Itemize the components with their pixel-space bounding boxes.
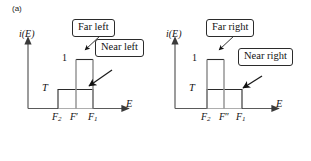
right-ytick-one: 1 bbox=[192, 52, 197, 63]
left-xtick-F2-sub: 2 bbox=[58, 115, 62, 123]
left-xtick-F2: F2 bbox=[52, 111, 62, 123]
right-y-axis-label-arg: (E) bbox=[169, 28, 182, 39]
right-xtick-F2: F2 bbox=[201, 111, 211, 123]
left-callout-near-leader bbox=[89, 70, 112, 86]
right-xtick-Fdprime: F″ bbox=[219, 111, 229, 122]
left-ytick-one: 1 bbox=[62, 52, 67, 63]
left-xtick-Fprime: F′ bbox=[70, 111, 78, 122]
left-callout-far-left[interactable]: Far left bbox=[72, 19, 115, 37]
right-callout-near-leader bbox=[243, 76, 262, 88]
left-callout-near-left[interactable]: Near left bbox=[95, 39, 144, 57]
right-xtick-F2-sub: 2 bbox=[207, 115, 211, 123]
right-panel-group bbox=[175, 35, 272, 109]
right-callout-far-right[interactable]: Far right bbox=[206, 19, 254, 37]
figure-root: (a) bbox=[0, 0, 311, 161]
right-ytick-T: T bbox=[189, 82, 195, 93]
left-y-axis-label: i(E) bbox=[19, 28, 35, 39]
right-x-axis-label: E bbox=[276, 98, 282, 109]
right-xtick-Fdprime-mark: ″ bbox=[225, 111, 229, 122]
left-ytick-T: T bbox=[42, 82, 48, 93]
left-xtick-Fprime-mark: ′ bbox=[76, 111, 78, 122]
left-xtick-F1: F1 bbox=[88, 111, 98, 123]
left-xtick-F1-sub: 1 bbox=[94, 115, 98, 123]
right-callout-far-leader bbox=[219, 35, 235, 50]
right-xtick-F1-sub: 1 bbox=[242, 115, 246, 123]
right-xtick-F1: F1 bbox=[236, 111, 246, 123]
plot-canvas bbox=[0, 0, 311, 161]
left-y-axis-label-arg: (E) bbox=[22, 28, 35, 39]
left-x-axis-label: E bbox=[126, 98, 132, 109]
right-y-axis-label: i(E) bbox=[166, 28, 182, 39]
right-callout-near-right[interactable]: Near right bbox=[238, 48, 293, 66]
